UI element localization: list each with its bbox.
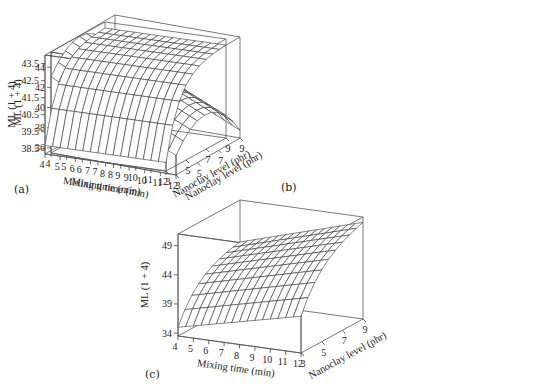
nanoclay-axis-label: Nanoclay level (phr) (307, 329, 389, 382)
nanoclay-tick-label: 3 (301, 358, 306, 369)
mixing-time-tick-label: 4 (40, 159, 45, 170)
ml-tick-label: 41.5 (22, 92, 40, 103)
ml-tick-label: 44 (162, 269, 172, 280)
mixing-time-tick-label: 10 (128, 172, 138, 183)
ml-tick-label: 34 (162, 328, 172, 339)
ml-axis-ticks: 34394449 (162, 240, 178, 338)
mixing-time-tick-label: 11 (278, 356, 288, 367)
mixing-time-tick-label: 7 (219, 347, 224, 358)
panel-c-label: (c) (145, 368, 160, 381)
ml-tick-label: 42.5 (22, 75, 40, 86)
nanoclay-tick-label: 3 (166, 176, 171, 187)
nanoclay-tick-label: 9 (363, 324, 368, 335)
mixing-time-tick-label: 8 (234, 350, 239, 361)
mixing-time-tick-label: 11 (143, 174, 153, 185)
nanoclay-tick-label: 5 (186, 165, 191, 176)
ml-axis-label: ML (1 + 4) (6, 81, 18, 128)
nanoclay-axis-label: Nanoclay level (phr) (171, 148, 253, 201)
ml-tick-label: 43.5 (22, 58, 40, 69)
nanoclay-tick-label: 9 (226, 143, 231, 154)
ml-tick-label: 38.5 (22, 143, 40, 154)
mixing-time-tick-label: 6 (203, 345, 208, 356)
ml-tick-label: 40.5 (22, 109, 40, 120)
nanoclay-tick-label: 5 (321, 347, 326, 358)
mixing-time-tick-label: 5 (188, 343, 193, 354)
figure-canvas: 3638404244ML (1 + 4)456789101112Mixing t… (0, 0, 535, 392)
ml-tick-label: 49 (162, 240, 172, 251)
panel-c-surface-plot: 34394449ML (1 + 4)456789101112Mixing tim… (139, 200, 389, 382)
mixing-time-tick-label: 10 (262, 354, 272, 365)
mixing-time-tick-label: 8 (100, 168, 105, 179)
mixing-time-tick-label: 5 (55, 161, 60, 172)
mixing-time-tick-label: 9 (115, 170, 120, 181)
mixing-time-tick-label: 7 (92, 166, 97, 177)
nanoclay-tick-label: 7 (342, 335, 347, 346)
nanoclay-tick-label: 7 (206, 154, 211, 165)
mixing-time-tick-label: 4 (46, 158, 51, 169)
mixing-time-tick-label: 5 (61, 161, 66, 172)
ml-axis-label: ML (1 + 4) (139, 261, 151, 308)
mixing-time-tick-label: 6 (70, 163, 75, 174)
mixing-time-tick-label: 6 (77, 164, 82, 175)
mixing-time-tick-label: 4 (173, 341, 178, 352)
ml-tick-label: 39.5 (22, 126, 40, 137)
panel-b-label: (b) (281, 181, 297, 194)
mixing-time-tick-label: 9 (249, 352, 254, 363)
mixing-time-tick-label: 8 (108, 169, 113, 180)
panel-a-label: (a) (14, 183, 29, 196)
ml-tick-label: 39 (162, 298, 172, 309)
mixing-time-tick-label: 7 (85, 165, 90, 176)
